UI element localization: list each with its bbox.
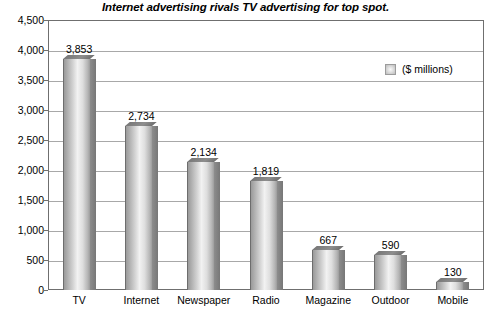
bar: 2,734: [125, 126, 158, 290]
bar-side-face: [90, 59, 96, 290]
chart-legend: ($ millions): [385, 64, 453, 75]
bar-front-face: [436, 282, 463, 290]
bar-value-label: 2,134: [175, 147, 232, 158]
bar-shape: [125, 126, 158, 290]
bar-shape: [250, 181, 283, 290]
bar-front-face: [187, 162, 214, 290]
x-axis-tick-label: Internet: [110, 294, 172, 306]
bar-value-label: 590: [362, 240, 419, 251]
bar-front-face: [374, 255, 401, 290]
bar-side-face: [339, 250, 345, 290]
bar-shape: [187, 162, 220, 290]
bar-side-face: [463, 282, 469, 290]
bar-side-face: [277, 181, 283, 290]
bar-top-face: [250, 177, 282, 181]
bar: 3,853: [63, 59, 96, 290]
x-axis-tick-label: Outdoor: [359, 294, 421, 306]
bar-top-face: [312, 246, 344, 250]
x-axis-tick-label: TV: [48, 294, 110, 306]
bar-top-face: [125, 122, 157, 126]
bar-top-face: [63, 55, 95, 59]
chart-title: Internet advertising rivals TV advertisi…: [0, 0, 491, 14]
bar: 590: [374, 255, 407, 290]
x-axis-tick-labels: TVInternetNewspaperRadioMagazineOutdoorM…: [48, 294, 484, 314]
bar-value-label: 1,819: [238, 166, 295, 177]
bar-front-face: [125, 126, 152, 290]
bar-series: 3,8532,7342,1341,819667590130: [48, 20, 484, 290]
bar: 130: [436, 282, 469, 290]
bar-shape: [436, 282, 469, 290]
legend-swatch-icon: [385, 64, 396, 75]
bar-front-face: [250, 181, 277, 290]
bar-front-face: [63, 59, 90, 290]
bar-top-face: [436, 278, 468, 282]
bar: 667: [312, 250, 345, 290]
y-axis-tick-marks: [0, 20, 48, 290]
x-axis-tick-label: Mobile: [422, 294, 484, 306]
y-axis-tick-mark: [43, 290, 48, 291]
x-axis-tick-label: Newspaper: [173, 294, 235, 306]
bar-top-face: [374, 251, 406, 255]
bar-shape: [374, 255, 407, 290]
bar-top-face: [187, 158, 219, 162]
bar-shape: [312, 250, 345, 290]
x-axis-tick-label: Radio: [235, 294, 297, 306]
bar: 1,819: [250, 181, 283, 290]
bar-front-face: [312, 250, 339, 290]
bar-value-label: 3,853: [51, 44, 108, 55]
bar-side-face: [152, 126, 158, 290]
bar: 2,134: [187, 162, 220, 290]
bar-value-label: 667: [300, 235, 357, 246]
bar-value-label: 130: [424, 267, 481, 278]
bar-side-face: [214, 162, 220, 290]
bar-side-face: [401, 255, 407, 290]
bar-value-label: 2,734: [113, 111, 170, 122]
legend-label: ($ millions): [402, 64, 453, 75]
bar-shape: [63, 59, 96, 290]
x-axis-tick-label: Magazine: [297, 294, 359, 306]
